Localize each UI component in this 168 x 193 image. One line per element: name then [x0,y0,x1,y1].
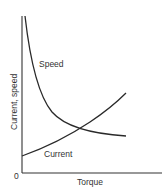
x-axis-title: Torque [77,177,103,187]
speed-curve [25,16,126,136]
chart: Speed Current 0 Torque Current, speed [0,0,168,193]
speed-label: Speed [39,59,64,69]
origin-label: 0 [14,171,19,181]
current-label: Current [44,149,73,159]
current-curve [22,93,126,156]
y-axis-title: Current, speed [9,74,19,130]
